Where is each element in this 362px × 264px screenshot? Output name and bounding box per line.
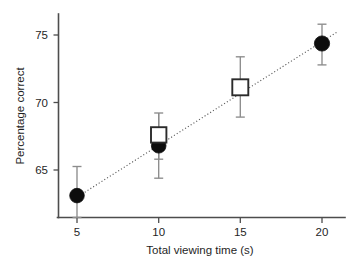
x-axis-title: Total viewing time (s): [146, 244, 254, 256]
y-tick-label: 75: [35, 29, 48, 41]
error-bar-group-open: [154, 57, 245, 159]
data-points-open-square: [151, 79, 248, 142]
data-point-marker: [70, 188, 85, 203]
data-point-marker: [232, 79, 248, 95]
y-tick-label: 65: [35, 164, 48, 176]
x-tick-label: 20: [316, 226, 329, 238]
y-axis-title: Percentage correct: [14, 67, 26, 165]
data-point-marker: [314, 36, 329, 51]
chart-figure: 75 70 65 5 10 15 20 Total viewing time (…: [0, 0, 362, 264]
data-point-marker: [151, 127, 166, 142]
y-tick-label: 70: [35, 97, 48, 109]
x-tick-label: 15: [234, 226, 247, 238]
x-tick-label: 5: [74, 226, 80, 238]
y-axis-ticks: 75 70 65: [35, 29, 58, 176]
dotted-regression-line: [82, 32, 338, 195]
x-axis-ticks: 5 10 15 20: [74, 218, 329, 239]
error-bar-group-filled: [73, 24, 327, 217]
x-tick-label: 10: [152, 226, 165, 238]
scatter-plot: 75 70 65 5 10 15 20 Total viewing time (…: [0, 0, 362, 264]
